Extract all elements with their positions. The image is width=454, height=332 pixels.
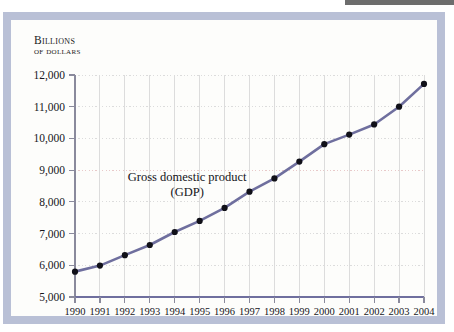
svg-text:1996: 1996 xyxy=(214,306,235,316)
svg-text:12,000: 12,000 xyxy=(33,69,65,82)
svg-text:2001: 2001 xyxy=(339,306,360,316)
x-axis-tick-labels: 1990199119921993199419951996199719981999… xyxy=(65,306,436,316)
svg-text:10,000: 10,000 xyxy=(33,132,65,145)
svg-text:9,000: 9,000 xyxy=(39,164,65,177)
figure-frame: Billions of dollars 12,00011,00010,0009,… xyxy=(3,12,445,324)
svg-text:1995: 1995 xyxy=(189,306,210,316)
svg-text:1991: 1991 xyxy=(89,306,110,316)
svg-text:1990: 1990 xyxy=(65,306,86,316)
x-axis-ticks xyxy=(75,297,424,303)
svg-text:8,000: 8,000 xyxy=(39,196,65,209)
svg-text:1997: 1997 xyxy=(239,306,260,316)
figure-inner: Billions of dollars 12,00011,00010,0009,… xyxy=(11,20,437,316)
svg-text:11,000: 11,000 xyxy=(34,101,65,114)
svg-text:1994: 1994 xyxy=(164,306,186,316)
svg-text:2003: 2003 xyxy=(389,306,410,316)
svg-text:1998: 1998 xyxy=(264,306,285,316)
svg-text:1993: 1993 xyxy=(139,306,160,316)
svg-text:Gross domestic product: Gross domestic product xyxy=(128,170,247,184)
svg-text:5,000: 5,000 xyxy=(39,291,65,304)
svg-text:7,000: 7,000 xyxy=(39,228,65,241)
series-annotation: Gross domestic product(GDP) xyxy=(128,170,247,199)
svg-text:2002: 2002 xyxy=(364,306,385,316)
svg-text:1992: 1992 xyxy=(114,306,135,316)
svg-text:1999: 1999 xyxy=(289,306,310,316)
y-axis-tick-labels: 12,00011,00010,0009,0008,0007,0006,0005,… xyxy=(33,69,65,304)
figure-page: Billions of dollars 12,00011,00010,0009,… xyxy=(0,0,454,332)
svg-text:2000: 2000 xyxy=(314,306,335,316)
line-chart: 12,00011,00010,0009,0008,0007,0006,0005,… xyxy=(11,20,437,316)
y-axis-ticks xyxy=(69,75,75,297)
adjacent-page-fragment xyxy=(345,0,454,5)
svg-text:2004: 2004 xyxy=(414,306,436,316)
svg-text:(GDP): (GDP) xyxy=(171,185,204,199)
chart-svg: 12,00011,00010,0009,0008,0007,0006,0005,… xyxy=(11,20,437,316)
svg-text:6,000: 6,000 xyxy=(39,259,65,272)
